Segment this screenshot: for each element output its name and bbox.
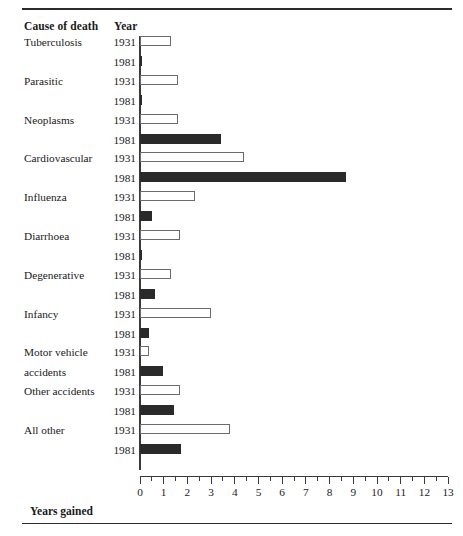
bar (140, 211, 152, 221)
x-axis-tick-label: 1 (154, 486, 174, 498)
x-axis-major-tick (258, 477, 259, 484)
year-label: 1981 (112, 366, 136, 378)
x-axis-major-tick (140, 477, 141, 484)
bar-row: 1931 (0, 36, 463, 56)
x-axis-minor-tick (436, 477, 437, 481)
bar-row: 1981 (0, 444, 463, 464)
x-axis-title-text: Years gained (30, 505, 93, 517)
year-label: 1931 (112, 36, 136, 48)
x-axis-minor-tick (317, 477, 318, 481)
x-axis-minor-tick (270, 477, 271, 481)
bar (140, 172, 346, 182)
x-axis-tick-label: 3 (201, 486, 221, 498)
x-axis-major-tick (329, 477, 330, 484)
bar-row: 1931 (0, 191, 463, 211)
x-axis-minor-tick (199, 477, 200, 481)
x-axis-tick-label: 7 (296, 486, 316, 498)
year-label: 1931 (112, 308, 136, 320)
plot-area: Tuberculosis19311981Parasitic19311981Neo… (0, 36, 463, 476)
x-axis-tick-label: 6 (272, 486, 292, 498)
bar (140, 328, 149, 338)
bar-row: 1931 (0, 114, 463, 134)
bar-row: 1931 (0, 75, 463, 95)
year-label: 1981 (112, 134, 136, 146)
x-axis-major-tick (448, 477, 449, 484)
x-axis-minor-tick (222, 477, 223, 481)
x-axis-major-tick (282, 477, 283, 484)
bar-row: 1931 (0, 308, 463, 328)
x-axis-tick-label: 13 (438, 486, 458, 498)
x-axis-tick-label: 2 (177, 486, 197, 498)
bar-row: 1931 (0, 152, 463, 172)
year-label: 1931 (112, 269, 136, 281)
bar (140, 405, 174, 415)
bar-row: 1931 (0, 269, 463, 289)
bar (140, 191, 195, 201)
year-label: 1931 (112, 346, 136, 358)
x-axis-minor-tick (246, 477, 247, 481)
year-label: 1931 (112, 75, 136, 87)
bar (140, 56, 142, 66)
figure-bar-chart-years-gained: Cause of death Year Tuberculosis19311981… (0, 0, 463, 536)
x-axis-major-tick (353, 477, 354, 484)
year-label: 1981 (112, 172, 136, 184)
year-label: 1931 (112, 424, 136, 436)
x-axis: 012345678910111213 Years gained (0, 476, 463, 536)
bar-row: 1981 (0, 405, 463, 425)
bar (140, 230, 180, 240)
x-axis-major-tick (163, 477, 164, 484)
column-header-year: Year (114, 20, 137, 32)
top-rule (22, 8, 452, 10)
bar-row: 1981 (0, 211, 463, 231)
bar (140, 152, 244, 162)
year-label: 1981 (112, 289, 136, 301)
bar (140, 424, 230, 434)
bar-row: 1931 (0, 385, 463, 405)
x-axis-major-tick (187, 477, 188, 484)
bar (140, 134, 221, 144)
x-axis-minor-tick (151, 477, 152, 481)
x-axis-tick-label: 5 (249, 486, 269, 498)
bar (140, 366, 163, 376)
bar-row: 1931 (0, 230, 463, 250)
x-axis-major-tick (234, 477, 235, 484)
bar-row: 1981 (0, 134, 463, 154)
bar-row: 1931 (0, 346, 463, 366)
year-label: 1981 (112, 405, 136, 417)
bar-row: 1981 (0, 250, 463, 270)
bar (140, 250, 142, 260)
bar-row: 1981 (0, 328, 463, 348)
year-label: 1981 (112, 56, 136, 68)
year-label: 1981 (112, 444, 136, 456)
x-axis-tick-label: 8 (320, 486, 340, 498)
bar (140, 269, 171, 279)
year-label: 1931 (112, 152, 136, 164)
year-label: 1931 (112, 230, 136, 242)
bar-row: 1981 (0, 56, 463, 76)
bar (140, 346, 149, 356)
x-axis-title: Years gained (0, 505, 463, 517)
x-axis-tick-label: 0 (130, 486, 150, 498)
x-axis-major-tick (211, 477, 212, 484)
year-label: 1931 (112, 191, 136, 203)
bottom-rule (22, 523, 452, 524)
x-axis-tick-label: 4 (225, 486, 245, 498)
bar-row: 1981 (0, 289, 463, 309)
bar (140, 385, 180, 395)
bar-row: 1931 (0, 424, 463, 444)
x-axis-minor-tick (365, 477, 366, 481)
year-label: 1931 (112, 385, 136, 397)
bar-row: 1981 (0, 366, 463, 386)
year-label: 1981 (112, 250, 136, 262)
bar (140, 114, 178, 124)
year-label: 1981 (112, 211, 136, 223)
x-axis-tick-label: 11 (391, 486, 411, 498)
year-label: 1981 (112, 328, 136, 340)
bar (140, 444, 181, 454)
x-axis-minor-tick (388, 477, 389, 481)
year-label: 1981 (112, 95, 136, 107)
x-axis-major-tick (424, 477, 425, 484)
x-axis-major-tick (400, 477, 401, 484)
x-axis-minor-tick (341, 477, 342, 481)
x-axis-tick-label: 12 (414, 486, 434, 498)
